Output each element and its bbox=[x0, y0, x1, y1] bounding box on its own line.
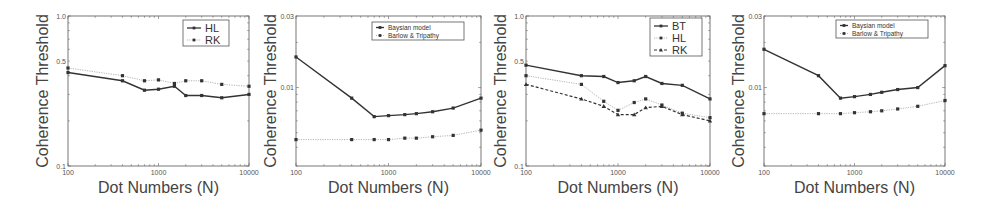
data-point bbox=[880, 91, 883, 94]
data-point bbox=[479, 129, 482, 132]
legend-label: BT bbox=[672, 20, 686, 32]
x-tick-label: 100 bbox=[758, 169, 770, 176]
x-tick-label: 100 bbox=[290, 169, 302, 176]
data-point bbox=[173, 82, 176, 85]
data-point bbox=[817, 74, 820, 77]
y-tick-label: 0.01 bbox=[748, 84, 762, 91]
data-point bbox=[896, 107, 899, 110]
data-point bbox=[643, 105, 647, 109]
data-point bbox=[184, 79, 187, 82]
legend: BTHLRK bbox=[650, 18, 702, 56]
data-point bbox=[247, 93, 250, 96]
data-point bbox=[403, 113, 406, 116]
legend-label: HL bbox=[672, 32, 686, 44]
legend-label: Barlow & Tripathy bbox=[388, 32, 440, 40]
data-point bbox=[431, 110, 434, 113]
x-tick-label: 1000 bbox=[381, 169, 397, 176]
data-point bbox=[294, 55, 297, 58]
series-bt bbox=[524, 64, 711, 101]
data-point bbox=[373, 138, 376, 141]
data-point bbox=[762, 112, 765, 115]
data-point bbox=[431, 135, 434, 138]
chart-2: 1001000100000.010.03Dot Numbers (N)Coher… bbox=[262, 13, 491, 197]
data-point bbox=[660, 82, 663, 85]
data-point bbox=[916, 105, 919, 108]
data-point bbox=[121, 74, 124, 77]
series-baysian-model bbox=[762, 48, 946, 100]
data-point bbox=[602, 104, 606, 108]
data-point bbox=[415, 112, 418, 115]
y-axis-label: Coherence Threshold bbox=[34, 14, 51, 168]
y-tick-label: 0.5 bbox=[514, 58, 524, 65]
data-point bbox=[616, 81, 619, 84]
x-axis-label: Dot Numbers (N) bbox=[558, 179, 679, 196]
chart-4: 1001000100000.010.03Dot Numbers (N)Coher… bbox=[730, 13, 955, 197]
data-point bbox=[350, 138, 353, 141]
data-point bbox=[415, 137, 418, 140]
data-point bbox=[247, 85, 250, 88]
data-point bbox=[633, 79, 636, 82]
data-point bbox=[853, 95, 856, 98]
y-tick-label: 0.01 bbox=[280, 84, 294, 91]
data-point bbox=[943, 64, 946, 67]
data-point bbox=[616, 109, 619, 112]
data-point bbox=[143, 89, 146, 92]
x-axis-label: Dot Numbers (N) bbox=[794, 179, 915, 196]
data-point bbox=[817, 112, 820, 115]
legend-label: Baysian model bbox=[852, 22, 895, 30]
data-point bbox=[839, 97, 842, 100]
data-point bbox=[681, 84, 684, 87]
data-point bbox=[880, 109, 883, 112]
data-point bbox=[373, 115, 376, 118]
y-tick-label: 0.03 bbox=[280, 13, 294, 20]
data-point bbox=[869, 110, 872, 113]
y-tick-label: 1.0 bbox=[56, 13, 66, 20]
chart-panel-row: 1001000100000.10.51.0Dot Numbers (N)Cohe… bbox=[0, 0, 981, 199]
x-tick-label: 1000 bbox=[151, 169, 167, 176]
legend-label: Barlow & Tripathy bbox=[852, 30, 904, 38]
legend: Baysian modelBarlow & Tripathy bbox=[372, 22, 464, 40]
data-point bbox=[479, 97, 482, 100]
chart-1: 1001000100000.10.51.0Dot Numbers (N)Cohe… bbox=[34, 13, 259, 197]
series-baysian-model bbox=[294, 55, 482, 118]
legend: Baysian modelBarlow & Tripathy bbox=[836, 20, 928, 38]
x-tick-label: 1000 bbox=[847, 169, 863, 176]
data-point bbox=[66, 66, 69, 69]
data-point bbox=[403, 137, 406, 140]
chart-3: 1001000100000.10.51.0Dot Numbers (N)Cohe… bbox=[492, 13, 720, 197]
data-point bbox=[387, 138, 390, 141]
data-point bbox=[294, 138, 297, 141]
data-point bbox=[220, 96, 223, 99]
data-point bbox=[524, 64, 527, 67]
data-point bbox=[220, 83, 223, 86]
y-axis-label: Coherence Threshold bbox=[730, 14, 747, 168]
data-point bbox=[452, 106, 455, 109]
data-point bbox=[66, 71, 69, 74]
x-tick-label: 100 bbox=[62, 169, 74, 176]
x-tick-label: 10000 bbox=[239, 169, 259, 176]
data-point bbox=[633, 101, 636, 104]
data-point bbox=[121, 79, 124, 82]
x-axis-label: Dot Numbers (N) bbox=[328, 179, 449, 196]
data-point bbox=[644, 75, 647, 78]
data-point bbox=[580, 83, 583, 86]
series-rk bbox=[524, 82, 712, 122]
y-axis-label: Coherence Threshold bbox=[492, 14, 509, 168]
data-point bbox=[644, 97, 647, 100]
y-axis-label: Coherence Threshold bbox=[262, 14, 279, 168]
data-point bbox=[943, 99, 946, 102]
data-point bbox=[387, 114, 390, 117]
data-point bbox=[184, 94, 187, 97]
legend-label: HL bbox=[205, 22, 219, 34]
data-point bbox=[350, 97, 353, 100]
data-point bbox=[173, 85, 176, 88]
x-tick-label: 1000 bbox=[610, 169, 626, 176]
x-tick-label: 10000 bbox=[700, 169, 720, 176]
legend-label: RK bbox=[672, 44, 688, 56]
data-point bbox=[200, 94, 203, 97]
data-point bbox=[896, 88, 899, 91]
data-point bbox=[708, 97, 711, 100]
data-point bbox=[157, 88, 160, 91]
data-point bbox=[762, 48, 765, 51]
data-point bbox=[916, 86, 919, 89]
